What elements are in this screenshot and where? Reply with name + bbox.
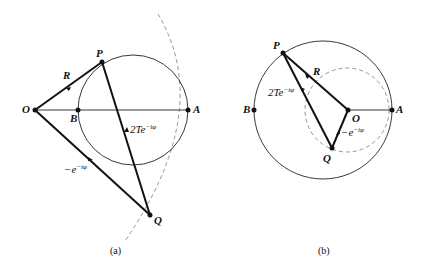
vector-R-b [283, 53, 348, 110]
label-A-a: A [193, 104, 200, 115]
point-A-a [186, 108, 191, 113]
label-minus-e-main-a: −e [64, 163, 76, 175]
label-2Te-sup-a: −iφ [146, 123, 157, 131]
label-Q-b: Q [323, 153, 331, 164]
caption-a: (a) [110, 245, 121, 256]
label-R-b: R [313, 66, 320, 77]
label-2Te-main-a: 2Te [130, 123, 146, 135]
label-Q-a: Q [154, 215, 162, 226]
arrow-QP-a [124, 127, 129, 132]
point-A-b [390, 108, 395, 113]
label-P-a: P [96, 48, 103, 59]
label-B-b: B [243, 104, 250, 115]
vector-QP-b [283, 53, 332, 148]
label-minus-e-b: −e−iφ [341, 127, 364, 138]
label-P-b: P [273, 40, 280, 51]
point-P-a [100, 60, 105, 65]
arrow-OQ-a [88, 157, 93, 161]
point-O-b [346, 108, 351, 113]
diagram-canvas [0, 0, 429, 277]
label-O-b: O [352, 113, 360, 124]
point-B-b [252, 108, 257, 113]
label-O-a: O [22, 104, 30, 115]
panel-a [33, 14, 191, 241]
label-R-a: R [63, 70, 70, 81]
point-Q-a [148, 213, 153, 218]
label-2Te-main-b: 2Te [268, 86, 284, 98]
label-2Te-b: 2Te−iφ [268, 87, 294, 98]
label-B-a: B [70, 113, 77, 124]
label-A-b: A [396, 104, 403, 115]
label-minus-e-sup-a: −iφ [76, 163, 87, 171]
label-minus-e-a: −e−iφ [64, 164, 87, 175]
label-2Te-a: 2Te−iφ [130, 124, 156, 135]
label-minus-e-main-b: −e [341, 126, 353, 138]
point-O-a [33, 108, 38, 113]
point-P-b [281, 51, 286, 56]
label-minus-e-sup-b: −iφ [353, 126, 364, 134]
caption-b: (b) [318, 245, 330, 256]
label-2Te-sup-b: −iφ [284, 86, 295, 94]
point-Q-b [330, 146, 335, 151]
